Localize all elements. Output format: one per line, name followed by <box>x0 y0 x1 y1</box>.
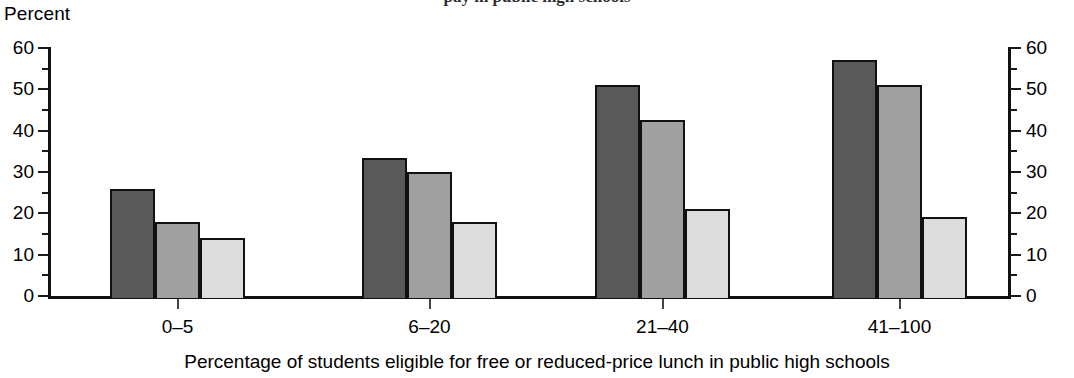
bar-21-40-series-2-medium <box>640 120 685 298</box>
x-axis-tick <box>177 299 179 309</box>
y-axis-tick-label-left: 30 <box>13 162 34 181</box>
y-axis-minor-tick <box>1010 233 1017 235</box>
y-axis-tick-label-right: 60 <box>1026 38 1047 57</box>
y-axis-major-tick <box>38 212 49 214</box>
bar-0-5-series-3-light <box>200 238 245 298</box>
y-axis-tick-label-left: 10 <box>13 245 34 264</box>
y-axis-tick-label-right: 50 <box>1026 79 1047 98</box>
y-axis-minor-tick <box>42 68 49 70</box>
y-axis-tick-label-left: 50 <box>13 79 34 98</box>
y-axis-tick-label-right: 40 <box>1026 121 1047 140</box>
x-axis-tick <box>662 299 664 309</box>
bar-41-100-series-2-medium <box>877 85 922 298</box>
y-axis-tick-label-right: 20 <box>1026 203 1047 222</box>
y-axis-major-tick <box>1010 295 1021 297</box>
y-axis-minor-tick <box>1010 274 1017 276</box>
y-axis-tick-label-right: 0 <box>1026 286 1037 305</box>
y-axis-major-tick <box>38 130 49 132</box>
bar-6-20-series-1-dark <box>362 158 407 298</box>
y-axis-major-tick <box>1010 47 1021 49</box>
y-axis-major-tick <box>38 88 49 90</box>
bar-21-40-series-1-dark <box>595 85 640 298</box>
x-axis-tick-label: 41–100 <box>868 316 931 338</box>
bar-6-20-series-2-medium <box>407 172 452 298</box>
y-axis-tick-label-left: 60 <box>13 38 34 57</box>
y-axis-minor-tick <box>1010 150 1017 152</box>
x-axis-title: Percentage of students eligible for free… <box>0 350 1074 373</box>
bar-21-40-series-3-light <box>685 209 730 298</box>
y-axis-left-spine <box>48 47 51 299</box>
x-axis-tick <box>429 299 431 309</box>
y-axis-minor-tick <box>1010 192 1017 194</box>
y-axis-major-tick <box>1010 171 1021 173</box>
bar-41-100-series-1-dark <box>832 60 877 298</box>
x-axis-tick-label: 21–40 <box>636 316 689 338</box>
y-axis-tick-label-left: 40 <box>13 121 34 140</box>
y-axis-minor-tick <box>1010 68 1017 70</box>
y-axis-minor-tick <box>42 233 49 235</box>
y-axis-major-tick <box>38 171 49 173</box>
x-axis-tick <box>899 299 901 309</box>
x-axis-tick-label: 6–20 <box>408 316 450 338</box>
y-axis-major-tick <box>1010 254 1021 256</box>
y-axis-tick-label-right: 10 <box>1026 245 1047 264</box>
y-axis-minor-tick <box>42 150 49 152</box>
y-axis-major-tick <box>38 295 49 297</box>
x-axis-tick-label: 0–5 <box>162 316 194 338</box>
y-axis-major-tick <box>1010 212 1021 214</box>
y-axis-tick-label-left: 0 <box>23 286 34 305</box>
y-axis-major-tick <box>1010 130 1021 132</box>
y-axis-right-spine <box>1008 47 1011 299</box>
bar-41-100-series-3-light <box>922 217 967 298</box>
y-axis-minor-tick <box>1010 109 1017 111</box>
y-axis-minor-tick <box>42 109 49 111</box>
y-axis-major-tick <box>38 47 49 49</box>
y-axis-minor-tick <box>42 274 49 276</box>
y-axis-major-tick <box>1010 88 1021 90</box>
bar-0-5-series-2-medium <box>155 222 200 298</box>
bar-chart-figure: pay in public high schools Percent 00101… <box>0 0 1074 378</box>
y-axis-tick-label-right: 30 <box>1026 162 1047 181</box>
bar-6-20-series-3-light <box>452 222 497 298</box>
y-axis-major-tick <box>38 254 49 256</box>
bar-0-5-series-1-dark <box>110 189 155 298</box>
y-axis-minor-tick <box>42 192 49 194</box>
plot-area: 001010202030304040505060600–56–2021–4041… <box>0 0 1074 378</box>
y-axis-tick-label-left: 20 <box>13 203 34 222</box>
